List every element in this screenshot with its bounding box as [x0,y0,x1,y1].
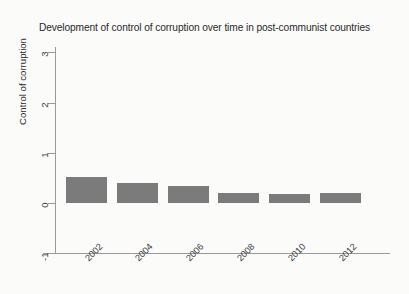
bar-2006[interactable] [168,186,209,203]
bar-2004[interactable] [117,183,158,203]
bar-2008[interactable] [218,193,259,203]
bar-2002[interactable] [66,177,107,203]
chart-figure: Development of control of corruption ove… [0,0,409,294]
bar-2010[interactable] [269,194,310,203]
bar-2012[interactable] [320,193,361,203]
